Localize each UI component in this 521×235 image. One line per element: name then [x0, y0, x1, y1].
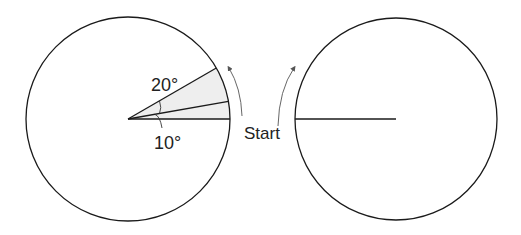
right-disk: [295, 18, 497, 220]
angle-label-20deg: 20°: [151, 75, 178, 95]
shaded-sector: [128, 68, 230, 119]
right-rotation-arrow: [278, 68, 294, 126]
left-disk: 20° 10°: [26, 17, 230, 221]
diagram-canvas: 20° 10° Start: [0, 0, 521, 235]
angle-label-10deg: 10°: [154, 133, 181, 153]
start-label: Start: [244, 124, 280, 143]
left-rotation-arrow: [229, 68, 242, 116]
